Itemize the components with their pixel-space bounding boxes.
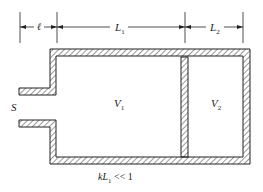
region-label-S: S bbox=[11, 101, 17, 113]
resonator-diagram: ℓ L1 L2 S V1 V2 kL1 << 1 bbox=[0, 0, 263, 192]
region-label-V1: V1 bbox=[114, 97, 125, 112]
region-label-V2: V2 bbox=[211, 97, 222, 112]
dim-label-L2: L2 bbox=[209, 21, 220, 36]
dim-label-L1: L1 bbox=[114, 21, 125, 36]
dim-label-l: ℓ bbox=[37, 21, 41, 32]
caption: kL1 << 1 bbox=[98, 171, 133, 185]
piston bbox=[181, 57, 188, 157]
